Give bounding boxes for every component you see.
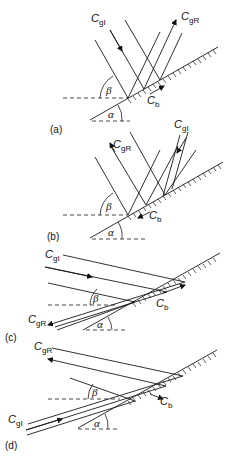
panel-b: CgI CgR Cb β α (b): [47, 118, 223, 242]
incident-ray: [125, 20, 160, 80]
incident-ray: [27, 401, 135, 435]
incident-ray: [172, 132, 188, 189]
label-cgr: CgR: [181, 10, 199, 25]
reflected-ray: [95, 157, 128, 215]
label-cgi: CgI: [91, 12, 106, 27]
incident-ray: [95, 40, 128, 98]
label-cgi: CgI: [174, 118, 189, 133]
label-beta: β: [91, 386, 98, 398]
label-beta: β: [105, 84, 112, 96]
label-beta: β: [92, 292, 99, 304]
incident-ray: [163, 135, 180, 196]
label-cb: Cb: [147, 94, 160, 109]
boundary-arrow: [150, 86, 164, 94]
reflected-ray: [130, 132, 165, 195]
panel-c: CgI CgR Cb β α (c): [5, 248, 220, 343]
incident-ray: [63, 255, 185, 282]
incident-ray: [48, 283, 135, 302]
reflected-ray: [52, 348, 183, 376]
label-cb: Cb: [149, 209, 162, 224]
alpha-arc: [118, 222, 122, 239]
reflected-ray: [110, 145, 146, 205]
label-beta: β: [105, 200, 112, 212]
panel-a: CgI CgR Cb β α (a): [50, 10, 218, 135]
alpha-arc: [108, 317, 112, 330]
label-alpha: α: [108, 226, 114, 238]
label-cgr: CgR: [28, 313, 46, 328]
alpha-arc: [118, 105, 122, 121]
ray: [146, 146, 178, 205]
label-cgr: CgR: [113, 138, 131, 153]
reflected-ray: [160, 33, 182, 80]
label-alpha: α: [97, 318, 103, 330]
slope-line: [83, 253, 220, 330]
label-alpha: α: [108, 108, 114, 120]
label-cb: Cb: [160, 395, 173, 410]
label-alpha: α: [94, 417, 100, 429]
label-cgi: CgI: [8, 413, 23, 428]
label-cgi: CgI: [45, 248, 60, 263]
label-cb: Cb: [156, 297, 169, 312]
boundary-arrow: [163, 285, 185, 293]
panel-label-a: (a): [50, 124, 62, 135]
panel-d: CgR CgI Cb β α (d): [5, 340, 217, 451]
reflected-ray: [48, 359, 166, 386]
reflected-ray: [70, 378, 135, 401]
figure-canvas: CgI CgR Cb β α (a): [0, 0, 232, 464]
reflected-ray: [57, 302, 135, 330]
slope-hatching: [133, 258, 216, 307]
panel-label-c: (c): [5, 332, 17, 343]
slope-hatching: [128, 50, 216, 103]
panel-label-d: (d): [5, 440, 17, 451]
label-cgr: CgR: [34, 340, 52, 355]
alpha-arc: [105, 414, 108, 429]
reflected-ray: [55, 292, 167, 327]
slope-hatching: [128, 165, 221, 220]
panel-label-b: (b): [47, 231, 59, 242]
